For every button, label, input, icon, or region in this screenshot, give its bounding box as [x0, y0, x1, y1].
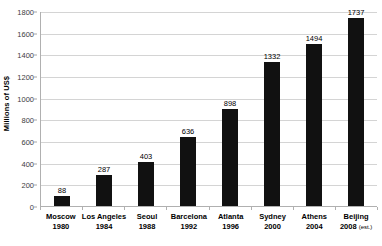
bar-value-label: 287	[98, 166, 111, 174]
x-axis-category-year: 1988	[126, 222, 168, 232]
x-axis-tick-mark	[82, 207, 83, 210]
bar[interactable]: 1332	[264, 62, 280, 206]
bar[interactable]: 898	[222, 109, 238, 206]
bar-slot: 636	[167, 12, 209, 206]
y-axis-tick-label: 1000	[17, 94, 34, 103]
x-axis-category-label: Barcelona1992	[168, 212, 210, 244]
y-axis-tick-label: 1600	[17, 29, 34, 38]
bar-value-label: 636	[182, 128, 195, 136]
bar-slot: 898	[209, 12, 251, 206]
x-axis-category-label: Seoul1988	[126, 212, 168, 244]
bar-value-label: 1332	[264, 53, 281, 61]
x-axis-ticks	[40, 207, 377, 211]
x-axis-category-label: Atlanta1996	[210, 212, 252, 244]
x-axis-category-city: Moscow	[40, 212, 82, 222]
bar-slot: 403	[125, 12, 167, 206]
x-axis-category-year: 1996	[210, 222, 252, 232]
x-axis-labels: Moscow1980Los Angeles1984Seoul1988Barcel…	[40, 212, 377, 244]
bar-chart: Millions of US$ 020040060080010001200140…	[0, 0, 382, 246]
bars-layer: 88287403636898133214941737	[41, 12, 377, 206]
bar[interactable]: 88	[54, 196, 70, 206]
x-axis-category-city: Athens	[293, 212, 335, 222]
y-axis-tick-label: 400	[21, 159, 34, 168]
x-axis-category-label: Los Angeles1984	[82, 212, 126, 244]
bar[interactable]: 403	[138, 162, 154, 206]
y-axis-tick-mark	[34, 185, 37, 186]
x-axis-category-note: (est.)	[359, 224, 373, 230]
x-axis-category-year: 2004	[293, 222, 335, 232]
y-axis-tick-mark	[34, 98, 37, 99]
y-axis-tick-mark	[34, 33, 37, 34]
x-axis-tick-mark	[166, 207, 167, 210]
y-axis-tick-mark	[34, 55, 37, 56]
bar[interactable]: 636	[180, 137, 196, 206]
bar[interactable]: 1494	[306, 44, 322, 206]
x-axis-tick-mark	[293, 207, 294, 210]
x-axis-category-city: Los Angeles	[82, 212, 126, 222]
x-axis-category-year: 1984	[82, 222, 126, 232]
x-axis-category-label: Moscow1980	[40, 212, 82, 244]
bar-value-label: 1737	[348, 9, 365, 17]
y-axis-tick-label: 1800	[17, 8, 34, 17]
x-axis-category-city: Sydney	[252, 212, 294, 222]
y-axis-tick-label: 200	[21, 181, 34, 190]
bar[interactable]: 1737	[348, 18, 364, 206]
bar-slot: 287	[83, 12, 125, 206]
x-axis-category-city: Barcelona	[168, 212, 210, 222]
x-axis-category-year: 1980	[40, 222, 82, 232]
x-axis-category-city: Atlanta	[210, 212, 252, 222]
y-axis-tick-mark	[34, 77, 37, 78]
y-axis-tick-label: 1200	[17, 73, 34, 82]
x-axis-category-year: 1992	[168, 222, 210, 232]
x-axis-category-year: 2008 (est.)	[335, 222, 377, 232]
bar-slot: 1494	[293, 12, 335, 206]
plot-area: 88287403636898133214941737	[40, 12, 377, 207]
x-axis-tick-mark	[209, 207, 210, 210]
y-axis-tick-mark	[34, 12, 37, 13]
y-axis-ticks: 020040060080010001200140016001800	[14, 12, 37, 207]
bar-slot: 88	[41, 12, 83, 206]
x-axis-tick-mark	[251, 207, 252, 210]
y-axis-tick-mark	[34, 207, 37, 208]
y-axis-tick-label: 800	[21, 116, 34, 125]
y-axis-tick-mark	[34, 142, 37, 143]
bar-slot: 1737	[335, 12, 377, 206]
x-axis-category-label: Sydney2000	[252, 212, 294, 244]
y-axis-tick-mark	[34, 163, 37, 164]
y-axis-tick-label: 600	[21, 138, 34, 147]
bar-value-label: 898	[224, 100, 237, 108]
x-axis-category-city: Seoul	[126, 212, 168, 222]
x-axis-category-year: 2000	[252, 222, 294, 232]
y-axis-tick-label: 1400	[17, 51, 34, 60]
bar[interactable]: 287	[96, 175, 112, 206]
y-axis-title: Millions of US$	[0, 0, 14, 207]
x-axis-tick-mark	[335, 207, 336, 210]
bar-value-label: 1494	[306, 35, 323, 43]
x-axis-category-label: Beijing2008 (est.)	[335, 212, 377, 244]
x-axis-tick-mark	[377, 207, 378, 210]
y-axis-tick-mark	[34, 120, 37, 121]
bar-value-label: 403	[140, 153, 153, 161]
x-axis-category-city: Beijing	[335, 212, 377, 222]
y-axis-title-text: Millions of US$	[3, 76, 12, 131]
x-axis-tick-mark	[40, 207, 41, 210]
bar-slot: 1332	[251, 12, 293, 206]
bar-value-label: 88	[58, 187, 66, 195]
x-axis-category-label: Athens2004	[293, 212, 335, 244]
x-axis-tick-mark	[124, 207, 125, 210]
